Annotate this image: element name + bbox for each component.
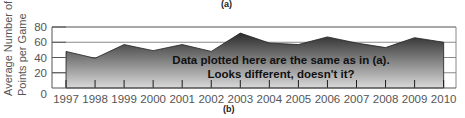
x-tick-label: 2004 xyxy=(257,93,283,105)
x-tick-label: 2008 xyxy=(373,93,399,105)
x-tick-label: 1998 xyxy=(82,93,108,105)
x-tick-label: 2005 xyxy=(286,93,312,105)
x-tick-label: 2000 xyxy=(140,93,166,105)
annotation-line-2: Looks different, doesn't it? xyxy=(207,68,354,80)
y-tick-label: 60 xyxy=(34,36,47,48)
y-tick-label: 0 xyxy=(41,88,47,100)
x-tick-label: 2001 xyxy=(169,93,195,105)
x-tick-label: 2006 xyxy=(315,93,341,105)
x-tick-label: 2010 xyxy=(431,93,457,105)
subplot-b-caption: (b) xyxy=(223,104,235,114)
y-tick-label: 80 xyxy=(34,21,47,33)
y-tick-label: 40 xyxy=(34,52,47,64)
x-tick-label: 1997 xyxy=(53,93,79,105)
x-tick-label: 2002 xyxy=(198,93,224,105)
x-axis-tick-labels: 1997199819992000200120022003200420052006… xyxy=(53,93,456,105)
x-tick-label: 1999 xyxy=(111,93,137,105)
x-tick-label: 2007 xyxy=(344,93,370,105)
y-tick-label: 20 xyxy=(34,67,47,79)
y-axis-tick-labels: 020406080 xyxy=(34,21,47,100)
x-tick-label: 2009 xyxy=(402,93,428,105)
area-chart: 020406080 199719981999200020012002200320… xyxy=(0,0,465,118)
annotation-line-1: Data plotted here are the same as in (a)… xyxy=(172,54,389,66)
